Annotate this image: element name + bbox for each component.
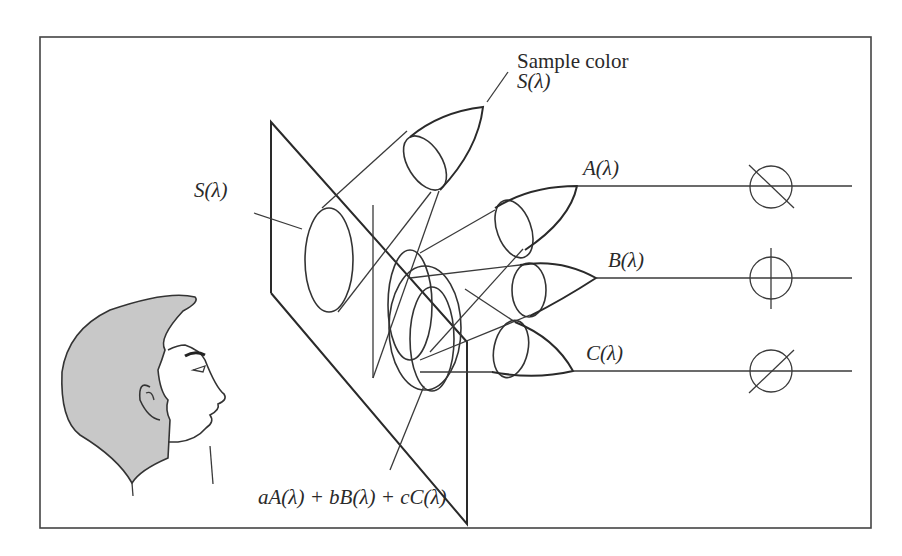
viewing-screen (271, 122, 467, 524)
mixture-label: aA(λ) + bB(λ) + cC(λ) (258, 487, 447, 508)
observer-head-icon (62, 295, 225, 496)
sample-spot (305, 208, 353, 312)
primary-a-label: A(λ) (583, 158, 619, 179)
color-matching-diagram: Sample color S(λ) S(λ) A(λ) B(λ) C(λ) aA… (0, 0, 902, 556)
primary-c-label: C(λ) (586, 343, 623, 364)
sample-leader (487, 72, 508, 102)
projector-b (410, 263, 852, 360)
sample-spectrum-label: S(λ) (517, 71, 551, 92)
screen-sample-leader (254, 213, 302, 229)
projector-c (420, 289, 852, 381)
screen-sample-label: S(λ) (194, 180, 228, 201)
sample-projector (322, 72, 508, 378)
mixture-leader (390, 386, 424, 470)
primary-b-label: B(λ) (608, 250, 644, 271)
mixture-spots (388, 250, 461, 391)
diagram-canvas (0, 0, 902, 556)
